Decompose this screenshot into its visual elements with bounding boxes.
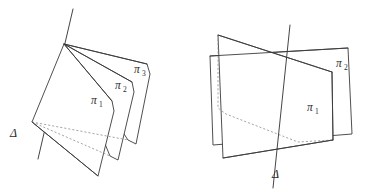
left-pi1-subscript: 1 — [99, 100, 103, 109]
right-pi1-subscript: 1 — [315, 107, 319, 116]
figure-canvas: Δ π 1 π 2 π 3 — [0, 0, 370, 192]
right-diagram-group: Δ π 1 π 2 — [210, 25, 352, 188]
geometry-figure: Δ π 1 π 2 π 3 — [0, 0, 370, 192]
left-pi2-subscript: 2 — [123, 85, 127, 94]
left-delta-label: Δ — [9, 126, 17, 140]
left-diagram-group: Δ π 1 π 2 π 3 — [9, 9, 150, 176]
left-pi3-subscript: 3 — [142, 69, 146, 78]
right-delta-label: Δ — [271, 167, 279, 181]
right-pi2-subscript: 2 — [344, 63, 348, 72]
